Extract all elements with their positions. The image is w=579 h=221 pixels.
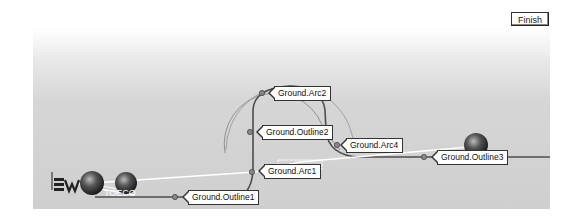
label-ground-outline3[interactable]: Ground.Outline3 xyxy=(437,150,508,165)
sketch-scene: TOECO xyxy=(0,0,579,221)
point-arc2[interactable] xyxy=(259,90,264,95)
point-arc1[interactable] xyxy=(249,169,254,174)
sphere-marker-icon[interactable] xyxy=(80,171,104,195)
label-ground-arc2[interactable]: Ground.Arc2 xyxy=(274,86,331,101)
point-outline1[interactable] xyxy=(172,194,177,199)
label-ground-arc1[interactable]: Ground.Arc1 xyxy=(264,164,321,179)
point-outline2[interactable] xyxy=(247,129,252,134)
label-ground-arc4[interactable]: Ground.Arc4 xyxy=(346,138,403,153)
svg-text:TOECO: TOECO xyxy=(104,188,136,198)
point-outline3[interactable] xyxy=(421,154,426,159)
point-arc4[interactable] xyxy=(334,142,339,147)
label-ground-outline1[interactable]: Ground.Outline1 xyxy=(188,190,259,205)
label-ground-outline2[interactable]: Ground.Outline2 xyxy=(262,125,333,140)
